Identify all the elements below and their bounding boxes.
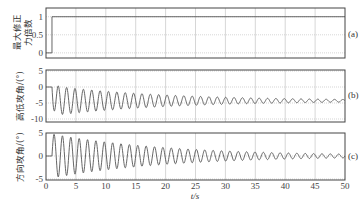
panel-c: -50505101520253035404550 (36, 128, 351, 191)
ytick-label: -5 (36, 174, 44, 184)
ytick-label: 0 (39, 82, 44, 92)
panel-label-a: (a) (348, 29, 358, 39)
ylabel-c: 方向攻角/(°) (15, 132, 25, 182)
svg-text:高低攻角/(°): 高低攻角/(°) (15, 71, 25, 121)
ytick-label: 5 (39, 128, 44, 138)
xtick-label: 30 (221, 181, 231, 191)
xtick-label: 0 (44, 181, 49, 191)
ytick-label: -5 (36, 98, 44, 108)
xtick-label: 40 (281, 181, 291, 191)
xtick-label: 10 (101, 181, 111, 191)
ytick-label: 0 (39, 48, 44, 58)
ytick-label: 5 (39, 66, 44, 76)
ylabel-a-line1: 最大修正 (12, 14, 22, 50)
chart-figure: 00.51 -10-505 -50505101520253035404550 (… (0, 0, 364, 204)
xtick-label: 35 (251, 181, 261, 191)
ytick-label: -10 (31, 114, 43, 124)
xlabel: t/s (191, 191, 200, 201)
xtick-label: 50 (341, 181, 351, 191)
xtick-label: 20 (161, 181, 171, 191)
panel-a: 00.51 (32, 8, 345, 58)
ylabel-b: 高低攻角/(°) (15, 71, 25, 121)
xtick-label: 45 (311, 181, 321, 191)
ylabel-a: 最大修正 力倍数 (12, 14, 33, 50)
svg-text:方向攻角/(°): 方向攻角/(°) (15, 132, 25, 182)
ytick-label: 0.5 (32, 30, 44, 40)
ylabel-a-line2: 力倍数 (23, 19, 33, 46)
panel-label-b: (b) (348, 90, 359, 100)
ytick-label: 0 (39, 151, 44, 161)
xtick-label: 15 (131, 181, 141, 191)
panel-b: -10-505 (31, 66, 345, 124)
panel-label-c: (c) (348, 151, 358, 161)
ytick-label: 1 (39, 12, 44, 22)
xtick-label: 25 (191, 181, 201, 191)
xtick-label: 5 (74, 181, 79, 191)
